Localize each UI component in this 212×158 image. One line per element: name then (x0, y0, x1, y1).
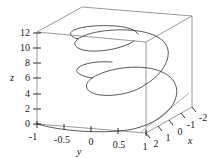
x-tick-label-neg2: -2 (199, 112, 207, 123)
x-axis-title: x (187, 135, 193, 146)
y-tick-label-neg05: -0.5 (54, 134, 70, 145)
y-axis-title: y (76, 146, 82, 157)
helix-segment-upper (75, 30, 168, 84)
z-tick-label-6: 6 (25, 72, 30, 83)
helix-curve (37, 26, 177, 132)
y-tick-label-1: 1 (143, 141, 148, 152)
helix-segment-mid (77, 62, 112, 78)
y-tick-label-0: 0 (89, 136, 94, 147)
z-tick-label-0: 0 (25, 118, 30, 129)
z-tick-label-8: 8 (25, 57, 30, 68)
x-tick-neg2 (192, 107, 196, 112)
y-tick-label-neg1: -1 (29, 131, 37, 142)
box-top-face (37, 7, 192, 42)
x-tick-label-0: 0 (178, 126, 183, 137)
y-tick-label-05: 0.5 (113, 139, 126, 150)
x-tick-1 (158, 126, 162, 131)
x-tick-0 (169, 120, 173, 125)
z-axis-tick-labels: 0 2 4 6 8 10 12 (20, 27, 30, 129)
x-tick-neg1 (181, 113, 185, 118)
x-tick-label-2: 2 (154, 138, 159, 149)
z-tick-label-4: 4 (25, 88, 30, 99)
x-tick-label-neg1: -1 (187, 119, 195, 130)
x-tick-2 (146, 133, 150, 138)
z-axis-title: z (9, 72, 14, 83)
x-tick-label-1: 1 (166, 132, 171, 143)
y-axis-tick-labels: -1 -0.5 0 0.5 1 (29, 131, 148, 152)
z-tick-label-10: 10 (20, 42, 30, 53)
z-tick-label-12: 12 (20, 27, 30, 38)
plot-figure: 0 2 4 6 8 10 12 z -1 -0.5 0 0.5 1 y (0, 0, 212, 158)
z-tick-label-2: 2 (25, 103, 30, 114)
plot-canvas: 0 2 4 6 8 10 12 z -1 -0.5 0 0.5 1 y (0, 0, 212, 158)
